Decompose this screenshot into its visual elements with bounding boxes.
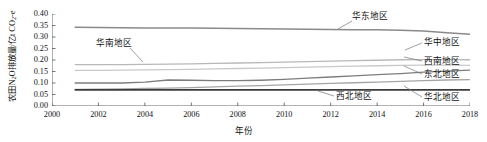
y-tick-label: 0.00 xyxy=(22,102,48,110)
x-tick-label: 2016 xyxy=(407,110,441,119)
series-line-2 xyxy=(75,60,470,65)
y-tick-label: 0.10 xyxy=(22,79,48,87)
x-axis-label: 年份 xyxy=(0,124,487,136)
x-tick-label: 2014 xyxy=(360,110,394,119)
x-axis-ticks: 2000200220042006200820102012201420162018 xyxy=(0,110,487,124)
series-canvas xyxy=(52,14,470,106)
x-tick-label: 2008 xyxy=(221,110,255,119)
y-tick-label: 0.20 xyxy=(22,56,48,64)
series-label-4: 西南地区 xyxy=(424,57,460,66)
x-tick-label: 2018 xyxy=(453,110,487,119)
series-label-5: 东北地区 xyxy=(424,70,460,79)
y-tick-label: 0.30 xyxy=(22,33,48,41)
series-label-3: 华中地区 xyxy=(424,38,460,47)
series-label-6: 西北地区 xyxy=(336,92,372,101)
x-tick-label: 2004 xyxy=(128,110,162,119)
y-tick-label: 0.40 xyxy=(22,10,48,18)
chart-figure: 农田N2O排放量/亿t CO2-e 0.000.050.100.150.200.… xyxy=(0,0,487,142)
y-axis-label: 农田N2O排放量/亿t CO2-e xyxy=(5,1,17,111)
series-line-5 xyxy=(75,80,470,90)
series-line-3 xyxy=(75,65,470,70)
y-tick-label: 0.35 xyxy=(22,22,48,30)
y-tick-label: 0.05 xyxy=(22,91,48,99)
series-line-1 xyxy=(75,27,470,34)
y-tick-label: 0.25 xyxy=(22,45,48,53)
series-label-1: 华东地区 xyxy=(352,12,388,21)
x-tick-label: 2000 xyxy=(35,110,69,119)
x-tick-label: 2010 xyxy=(267,110,301,119)
series-label-2: 华南地区 xyxy=(96,39,132,48)
x-tick-label: 2002 xyxy=(81,110,115,119)
x-tick-label: 2006 xyxy=(174,110,208,119)
y-tick-label: 0.15 xyxy=(22,68,48,76)
plot-area xyxy=(52,14,470,106)
x-tick-label: 2012 xyxy=(314,110,348,119)
series-label-7: 华北地区 xyxy=(424,93,460,102)
